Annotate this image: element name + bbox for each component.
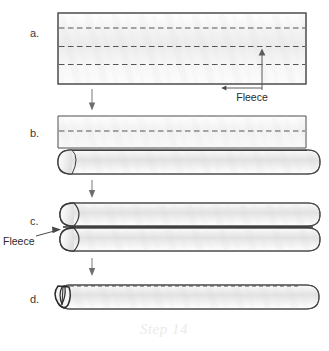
panel-a-fabric-sheet — [58, 13, 306, 84]
panel-c-letter: c. — [30, 215, 39, 227]
upper-tube-texture — [60, 203, 320, 226]
fleece-label-top: Fleece — [236, 91, 268, 103]
panel-c: c. Fleece — [3, 203, 320, 251]
panel-a: a. Fleece — [30, 13, 306, 103]
final-tube-pinched-end — [55, 286, 70, 308]
tube-end-cap — [58, 150, 72, 174]
arrow-b-to-c-head — [89, 190, 95, 198]
fabric-texture — [59, 14, 306, 84]
fleece-label-left: Fleece — [3, 235, 35, 247]
panel-c-lower-tube — [60, 228, 320, 251]
lower-tube-end-cap — [60, 228, 74, 251]
flat-flap-texture — [58, 116, 306, 148]
arrow-c-to-d — [89, 258, 95, 276]
fleece-callout-left: Fleece — [3, 227, 61, 247]
lower-tube-texture — [60, 228, 320, 251]
arrow-a-to-b — [89, 89, 95, 111]
panel-b-flat-flap — [58, 116, 306, 148]
instruction-diagram: a. Fleece b. — [0, 0, 329, 351]
panel-b-rolled-tube — [58, 150, 320, 174]
panel-d-letter: d. — [30, 293, 39, 305]
arrow-c-to-d-head — [89, 268, 95, 276]
fleece-callout-left-arrowhead — [52, 227, 61, 234]
panel-c-upper-tube — [60, 203, 320, 226]
tube-texture — [58, 150, 320, 174]
panel-b: b. — [30, 116, 320, 174]
panel-d: d. — [30, 285, 319, 309]
upper-tube-end-cap — [60, 203, 74, 226]
panel-a-letter: a. — [30, 27, 39, 39]
final-tube-texture — [57, 285, 319, 309]
panel-d-final-tube — [55, 285, 319, 309]
panel-b-letter: b. — [30, 127, 39, 139]
arrow-a-to-b-head — [89, 103, 95, 111]
figure-canvas: a. Fleece b. — [0, 0, 329, 351]
step-caption: Step 14 — [140, 321, 188, 337]
arrow-b-to-c — [89, 180, 95, 198]
